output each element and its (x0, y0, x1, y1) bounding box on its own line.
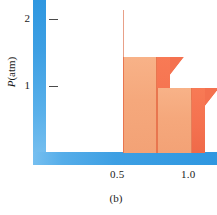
figure-caption: (b) (96, 192, 136, 204)
bar-1-front-face (123, 57, 157, 153)
x-tick-label-1-0: 1.0 (181, 168, 195, 180)
y-tick-label-2: 2 (6, 13, 30, 24)
bar-2-front-face (157, 88, 192, 153)
bar-2-side-face (191, 88, 205, 153)
y-axis-bar (33, 0, 46, 165)
y-axis-title-symbol: P (5, 81, 17, 88)
y-axis-title: P(atm) (5, 44, 17, 100)
x-tick-label-0-5: 0.5 (110, 168, 124, 180)
y-tick-mark-2 (49, 19, 58, 20)
x-axis-bar (33, 152, 217, 165)
bar-2-hidden-edge (191, 100, 192, 153)
y-axis-title-unit: (atm) (5, 57, 17, 81)
bar-2 (157, 71, 205, 153)
y-tick-mark-1 (49, 86, 58, 87)
pressure-volume-bar-figure: 2 1 P(atm) 0.5 1.0 (b) (0, 0, 217, 215)
